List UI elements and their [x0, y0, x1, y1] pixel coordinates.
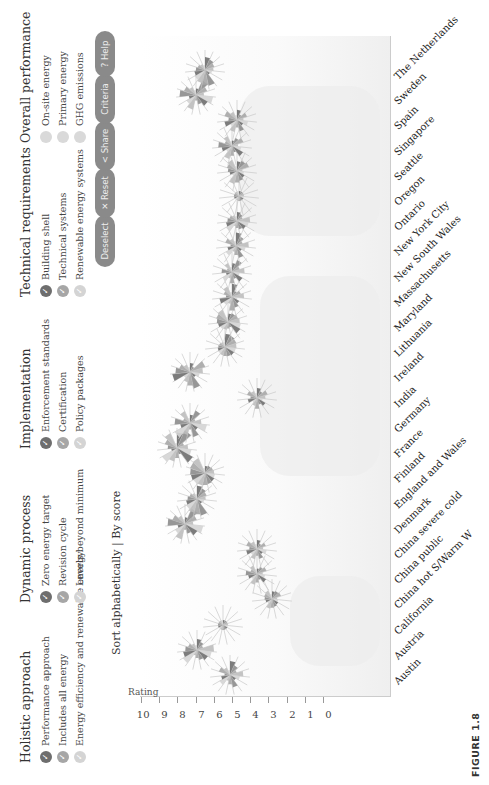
legend-toggle-item[interactable]: ✓Building shell: [37, 147, 54, 297]
y-tick-label: 9: [150, 709, 168, 720]
star-glyph-marker[interactable]: [167, 400, 213, 446]
y-tick-mark: [268, 697, 269, 703]
sort-separator: |: [110, 539, 123, 550]
legend-group: Overall performanceOn-site energyPrimary…: [18, 12, 88, 143]
legend-item-label: Primary energy: [57, 51, 68, 126]
legend-item-label: GHG emissions: [74, 52, 85, 126]
legend-toggle-item[interactable]: On-site energy: [37, 12, 54, 143]
y-tick-label: 4: [241, 709, 259, 720]
country-label[interactable]: Austin: [392, 656, 423, 687]
y-tick-label: 5: [223, 709, 241, 720]
legend-item-label: Zero energy target: [40, 495, 51, 586]
legend-group-title: Technical requirements: [18, 147, 33, 297]
star-glyph-marker[interactable]: [200, 602, 246, 648]
circle-icon[interactable]: [57, 131, 69, 143]
y-tick-label: 6: [204, 709, 222, 720]
legend-group-title: Implementation: [18, 319, 33, 449]
y-tick-label: 8: [168, 709, 186, 720]
deselect-button[interactable]: Deselect: [95, 215, 115, 267]
check-circle-icon[interactable]: ✓: [57, 591, 69, 603]
check-circle-icon[interactable]: ✓: [40, 437, 52, 449]
y-tick-mark: [287, 697, 288, 703]
y-tick-label: 10: [132, 709, 150, 720]
legend-item-label: Revision cycle: [57, 517, 68, 586]
legend-group: Implementation✓Enforcement standards✓Cer…: [18, 319, 88, 449]
legend-toggle-item[interactable]: Primary energy: [54, 12, 71, 143]
legend-item-label: Enforcement standards: [40, 319, 51, 432]
legend-group-title: Dynamic process: [18, 469, 33, 603]
legend-toggle-item[interactable]: ✓Policy packages: [71, 319, 88, 449]
map-background-shape: [290, 576, 380, 666]
legend-toggle-item[interactable]: ✓Certification: [54, 319, 71, 449]
legend-toggle-item[interactable]: ✓Renewable energy systems: [71, 147, 88, 297]
share-button[interactable]: < Share: [95, 121, 115, 171]
circle-icon[interactable]: [40, 131, 52, 143]
country-label[interactable]: The Netherlands: [392, 14, 460, 82]
legend-item-label: Levels beyond minimum: [74, 469, 85, 586]
check-circle-icon[interactable]: ✓: [57, 751, 69, 763]
sort-alphabetically-link[interactable]: Sort alphabetically: [110, 549, 123, 655]
figure-label: FIGURE 1.8: [470, 713, 481, 777]
legend-toggle-item[interactable]: ✓Enforcement standards: [37, 319, 54, 449]
legend-item-label: Performance approach: [40, 636, 51, 746]
check-circle-icon[interactable]: ✓: [40, 591, 52, 603]
legend-item-label: Renewable energy systems: [74, 149, 85, 280]
legend-toggle-item[interactable]: ✓Zero energy target: [37, 469, 54, 603]
criteria-button[interactable]: Criteria: [95, 74, 115, 124]
y-tick-label: 7: [186, 709, 204, 720]
check-circle-icon[interactable]: ✓: [74, 751, 86, 763]
y-tick-label: 2: [277, 709, 295, 720]
y-tick-label: 3: [259, 709, 277, 720]
check-circle-icon[interactable]: ✓: [74, 591, 86, 603]
sort-control: Sort alphabetically | By score: [110, 491, 123, 655]
y-tick-mark: [141, 697, 142, 703]
circle-icon[interactable]: [74, 131, 86, 143]
sort-by-score-link[interactable]: By score: [110, 491, 123, 539]
legend-toggle-item[interactable]: ✓Revision cycle: [54, 469, 71, 603]
star-glyph-marker[interactable]: [214, 97, 260, 143]
star-glyph-marker[interactable]: [234, 375, 280, 421]
legend-toggle-item[interactable]: GHG emissions: [71, 12, 88, 143]
legend-item-label: Policy packages: [74, 355, 85, 432]
check-circle-icon[interactable]: ✓: [74, 437, 86, 449]
y-tick-label: 0: [314, 709, 332, 720]
legend-group: Technical requirements✓Building shell✓Te…: [18, 147, 88, 297]
star-glyph-marker[interactable]: [182, 47, 228, 93]
reset-button[interactable]: ✕ Reset: [95, 168, 115, 218]
y-tick-mark: [305, 697, 306, 703]
legend-group: Dynamic process✓Zero energy target✓Revis…: [18, 469, 88, 603]
y-tick-mark: [177, 697, 178, 703]
star-glyph-marker[interactable]: [234, 526, 280, 572]
check-circle-icon[interactable]: ✓: [57, 437, 69, 449]
legend-toggle-item[interactable]: ✓Technical systems: [54, 147, 71, 297]
check-circle-icon[interactable]: ✓: [40, 285, 52, 297]
y-tick-mark: [196, 697, 197, 703]
legend-group-title: Overall performance: [18, 12, 33, 143]
legend-item-label: Building shell: [40, 214, 51, 280]
check-circle-icon[interactable]: ✓: [57, 285, 69, 297]
y-axis-title: Rating: [128, 687, 158, 697]
legend-item-label: Certification: [57, 372, 68, 432]
help-button[interactable]: ? Help: [95, 31, 115, 77]
y-tick-label: 1: [295, 709, 313, 720]
y-tick-mark: [323, 697, 324, 703]
legend-toggle-item[interactable]: ✓Levels beyond minimum: [71, 469, 88, 603]
figure-stage: Holistic approach✓Performance approach✓I…: [0, 0, 489, 785]
legend-item-label: Includes all energy: [57, 654, 68, 746]
check-circle-icon[interactable]: ✓: [74, 285, 86, 297]
legend-item-label: On-site energy: [40, 55, 51, 126]
legend-item-label: Technical systems: [57, 193, 68, 280]
y-tick-mark: [159, 697, 160, 703]
check-circle-icon[interactable]: ✓: [40, 751, 52, 763]
